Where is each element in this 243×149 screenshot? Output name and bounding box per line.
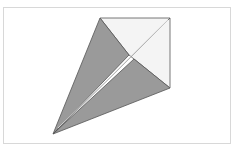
kite-fold-diagram bbox=[0, 0, 243, 149]
